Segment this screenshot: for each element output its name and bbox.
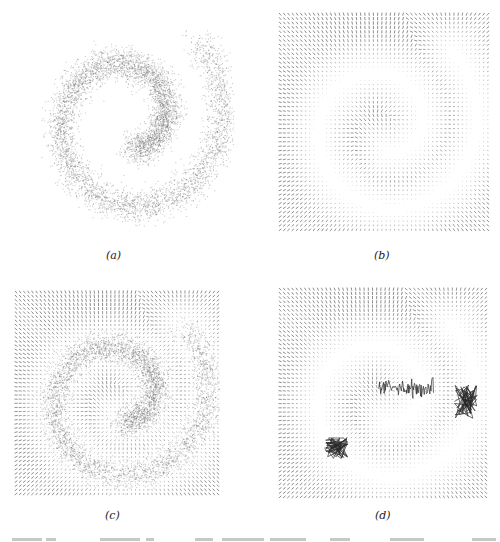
clipped-figure-caption: [0, 533, 500, 542]
caption-b: (b): [374, 249, 390, 262]
vector-field-trajectories-plot: [278, 287, 488, 499]
caption-d: (d): [375, 509, 391, 522]
panel-a-spiral-samples: [20, 0, 235, 230]
caption-c: (c): [105, 509, 120, 522]
caption-a: (a): [106, 249, 121, 262]
vector-field-plot: [278, 12, 490, 232]
spiral-scatter-plot: [20, 0, 235, 230]
panel-c-field-with-samples: [14, 290, 220, 496]
vector-field-samples-plot: [14, 290, 220, 496]
panel-b-vector-field: [278, 12, 490, 232]
panel-d-field-with-trajectories: [278, 287, 488, 499]
